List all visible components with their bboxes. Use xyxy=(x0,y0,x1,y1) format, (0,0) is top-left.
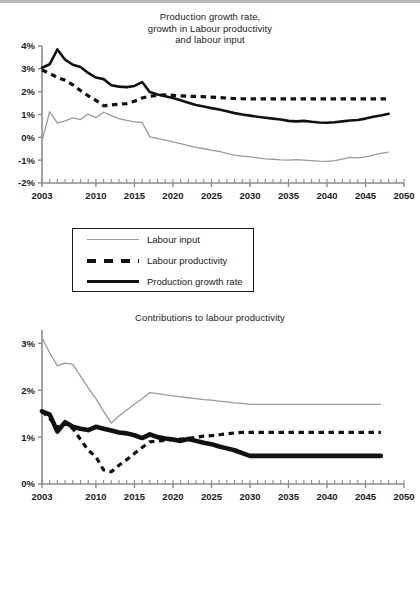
svg-text:2040: 2040 xyxy=(316,190,337,201)
svg-text:3%: 3% xyxy=(21,338,35,349)
series-line xyxy=(42,338,381,423)
svg-text:2%: 2% xyxy=(21,385,35,396)
legend-item-production-growth-rate: Production growth rate xyxy=(73,271,253,292)
svg-text:-2%: -2% xyxy=(18,177,35,188)
svg-text:2015: 2015 xyxy=(124,190,146,201)
svg-text:2020: 2020 xyxy=(162,491,183,502)
title-line-1: Production growth rate, xyxy=(70,11,350,23)
svg-text:0%: 0% xyxy=(21,132,35,143)
line-swatch-icon xyxy=(85,239,141,241)
svg-text:1%: 1% xyxy=(21,109,35,120)
production-growth-panel: Production growth rate, growth in Labour… xyxy=(0,0,420,300)
svg-text:0%: 0% xyxy=(21,478,35,489)
series-line xyxy=(42,112,389,162)
chart-title-contributions: Contributions to labour productivity xyxy=(70,312,350,324)
contributions-svg: 0%1%2%3%20032010201520202025203020352040… xyxy=(0,326,420,506)
svg-text:2050: 2050 xyxy=(393,190,414,201)
svg-text:2040: 2040 xyxy=(316,491,337,502)
svg-text:2003: 2003 xyxy=(31,190,52,201)
plot-area-contributions: 0%1%2%3%20032010201520202025203020352040… xyxy=(0,326,420,506)
svg-text:2%: 2% xyxy=(21,86,35,97)
series-line xyxy=(42,49,389,122)
svg-text:2035: 2035 xyxy=(278,190,300,201)
plot-area-production-growth: -2%-1%0%1%2%3%4%200320102015202020252030… xyxy=(0,40,420,205)
svg-text:2025: 2025 xyxy=(201,190,223,201)
title-line-1: Contributions to labour productivity xyxy=(70,312,350,324)
svg-text:4%: 4% xyxy=(21,40,35,51)
svg-text:1%: 1% xyxy=(21,432,35,443)
production-growth-svg: -2%-1%0%1%2%3%4%200320102015202020252030… xyxy=(0,40,420,205)
thick-line-swatch-icon xyxy=(85,280,141,283)
contributions-panel: Contributions to labour productivity 0%1… xyxy=(0,300,420,595)
title-line-2: growth in Labour productivity xyxy=(70,23,350,35)
legend-item-labour-productivity: Labour productivity xyxy=(73,250,253,271)
svg-text:2030: 2030 xyxy=(239,190,260,201)
svg-text:2015: 2015 xyxy=(124,491,146,502)
svg-text:3%: 3% xyxy=(21,63,35,74)
svg-text:2050: 2050 xyxy=(393,491,414,502)
svg-text:2045: 2045 xyxy=(355,491,377,502)
svg-text:2020: 2020 xyxy=(162,190,183,201)
svg-text:2025: 2025 xyxy=(201,491,223,502)
series-line xyxy=(42,411,381,471)
svg-text:2010: 2010 xyxy=(85,190,106,201)
svg-text:2045: 2045 xyxy=(355,190,377,201)
legend-label: Production growth rate xyxy=(147,276,243,287)
svg-text:-1%: -1% xyxy=(18,155,35,166)
legend-label: Labour productivity xyxy=(147,255,227,266)
figure-page: Production growth rate, growth in Labour… xyxy=(0,0,420,595)
dashed-line-swatch-icon xyxy=(85,259,141,263)
svg-text:2010: 2010 xyxy=(85,491,106,502)
svg-text:2035: 2035 xyxy=(278,491,300,502)
legend-item-labour-input: Labour input xyxy=(73,229,253,250)
legend-production-growth: Labour input Labour productivity Product… xyxy=(72,228,254,292)
svg-text:2003: 2003 xyxy=(31,491,52,502)
legend-label: Labour input xyxy=(147,234,200,245)
svg-text:2030: 2030 xyxy=(239,491,260,502)
